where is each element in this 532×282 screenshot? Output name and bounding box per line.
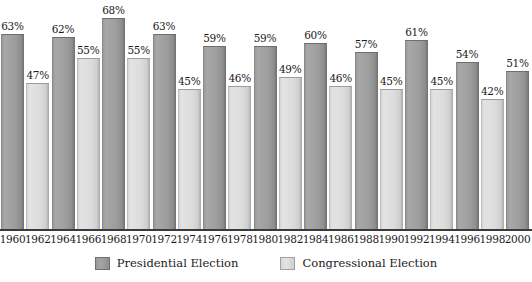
bar-1980 [254,46,277,229]
bar-group: 59% [203,0,226,229]
bar-value-label-1982: 49% [275,64,306,75]
bar-group: 63% [153,0,176,229]
bar-group: 46% [228,0,251,229]
bar-value-label-1980: 59% [250,33,281,44]
bar-group: 45% [430,0,453,229]
bar-group: 46% [329,0,352,229]
bar-group: 59% [254,0,277,229]
bar-1996 [456,62,479,229]
bar-1984 [304,43,327,229]
bar-value-label-1986: 46% [325,73,356,84]
bar-group: 47% [26,0,49,229]
bar-group: 54% [456,0,479,229]
bar-value-label-1968: 68% [98,5,129,16]
legend-item-congressional: Congressional Election [280,257,437,270]
bar-1968 [102,18,125,229]
bar-group: 49% [279,0,302,229]
bar-1986 [329,86,352,229]
bar-1998 [481,99,504,229]
bar-1962 [26,83,49,229]
bar-1960 [1,34,24,229]
bar-value-label-1974: 45% [174,76,205,87]
bar-1990 [380,89,403,229]
bar-value-label-1966: 55% [73,45,104,56]
x-tick-2000: 2000 [502,232,532,247]
turnout-bar-chart: 63%47%62%55%68%55%63%45%59%46%59%49%60%4… [0,0,532,282]
bar-value-label-1984: 60% [300,30,331,41]
legend-swatch-presidential-icon [95,257,110,270]
bar-group: 51% [506,0,529,229]
bar-value-label-1994: 45% [426,76,457,87]
bar-value-label-1962: 47% [22,70,53,81]
bar-1976 [203,46,226,229]
x-axis-line [0,229,532,231]
x-axis-tick-labels: 1960196219641966196819701972197419761978… [0,232,532,248]
bar-value-label-1992: 61% [401,27,432,38]
plot-area: 63%47%62%55%68%55%63%45%59%46%59%49%60%4… [0,0,532,231]
bar-value-label-1972: 63% [149,21,180,32]
bar-1970 [127,58,150,229]
bar-1964 [52,37,75,229]
bar-value-label-2000: 51% [502,58,532,69]
bar-value-label-1964: 62% [48,24,79,35]
legend-label-presidential: Presidential Election [117,257,239,270]
bar-2000 [506,71,529,229]
bar-value-label-1960: 63% [0,21,28,32]
bar-1992 [405,40,428,229]
bar-value-label-1978: 46% [224,73,255,84]
bar-1988 [355,52,378,229]
bar-value-label-1998: 42% [477,86,508,97]
bar-group: 57% [355,0,378,229]
chart-legend: Presidential Election Congressional Elec… [0,252,532,274]
bar-1974 [178,89,201,229]
bar-value-label-1996: 54% [452,49,483,60]
bar-1966 [77,58,100,229]
bar-value-label-1976: 59% [199,33,230,44]
bar-1978 [228,86,251,229]
bar-group: 60% [304,0,327,229]
bar-group: 45% [178,0,201,229]
bar-group: 55% [77,0,100,229]
bar-group: 62% [52,0,75,229]
legend-label-congressional: Congressional Election [302,257,437,270]
bar-1982 [279,77,302,229]
bar-1972 [153,34,176,229]
bar-group: 63% [1,0,24,229]
bar-group: 42% [481,0,504,229]
legend-item-presidential: Presidential Election [95,257,239,270]
bar-group: 45% [380,0,403,229]
bar-value-label-1970: 55% [123,45,154,56]
bar-value-label-1988: 57% [351,39,382,50]
bar-value-label-1990: 45% [376,76,407,87]
legend-swatch-congressional-icon [280,257,295,270]
bar-group: 68% [102,0,125,229]
bar-1994 [430,89,453,229]
bar-group: 55% [127,0,150,229]
bar-group: 61% [405,0,428,229]
